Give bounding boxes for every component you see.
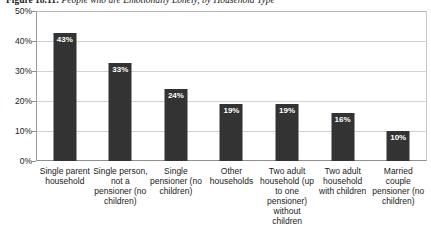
- y-axis-tick-mark: [32, 101, 36, 102]
- figure-number-label: Figure 18.11:: [6, 0, 59, 5]
- y-axis-tick-label: 0%: [0, 157, 32, 166]
- y-axis-tick-label: 40%: [0, 37, 32, 46]
- y-axis-tick-label: 10%: [0, 127, 32, 136]
- y-axis-tick-label: 20%: [0, 97, 32, 106]
- bar-value-label: 43%: [53, 35, 76, 44]
- x-axis-category-label: Two adult household with children: [315, 166, 371, 196]
- bar[interactable]: 43%: [53, 33, 76, 161]
- x-axis-category-label: Married couple pensioner (no children): [370, 166, 426, 206]
- bar-slot: 24%: [148, 12, 204, 161]
- figure-container: Figure 18.11: People who are Emotionally…: [0, 0, 431, 232]
- bar[interactable]: 33%: [109, 63, 132, 161]
- y-axis-tick-label: 30%: [0, 67, 32, 76]
- figure-title: Figure 18.11: People who are Emotionally…: [6, 0, 426, 7]
- bar[interactable]: 19%: [276, 104, 299, 161]
- bar-slot: 33%: [93, 12, 149, 161]
- bar[interactable]: 10%: [387, 131, 410, 161]
- y-axis-tick-mark: [32, 11, 36, 12]
- bar[interactable]: 24%: [164, 89, 187, 161]
- x-axis-category-labels: Single parent householdSingle person, no…: [37, 166, 426, 230]
- x-axis-category-label: Two adult household (up to one pensioner…: [259, 166, 315, 226]
- figure-caption: People who are Emotionally Lonely, by Ho…: [62, 0, 275, 5]
- bar[interactable]: 19%: [220, 104, 243, 161]
- y-axis-tick-mark: [32, 41, 36, 42]
- bar-value-label: 19%: [220, 106, 243, 115]
- bar-slot: 10%: [370, 12, 426, 161]
- bar-slot: 43%: [37, 12, 93, 161]
- x-axis-category-label: Single pensioner (no children): [148, 166, 204, 196]
- y-axis-tick-mark: [32, 131, 36, 132]
- x-axis-category-label: Single person, not a pensioner (no child…: [93, 166, 149, 206]
- bar-slot: 16%: [315, 12, 371, 161]
- bar[interactable]: 16%: [331, 113, 354, 161]
- y-axis-tick-mark: [32, 71, 36, 72]
- y-axis-tick-mark: [32, 161, 36, 162]
- bar-value-label: 33%: [109, 65, 132, 74]
- bar-value-label: 24%: [164, 91, 187, 100]
- bar-value-label: 10%: [387, 133, 410, 142]
- bar-value-label: 16%: [331, 115, 354, 124]
- x-axis-category-label: Other households: [204, 166, 260, 186]
- bar-slot: 19%: [204, 12, 260, 161]
- bar-series: 43%33%24%19%19%16%10%: [37, 12, 426, 161]
- bar-value-label: 19%: [276, 106, 299, 115]
- bar-slot: 19%: [259, 12, 315, 161]
- y-axis-tick-label: 50%: [0, 7, 32, 16]
- x-axis-category-label: Single parent household: [37, 166, 93, 186]
